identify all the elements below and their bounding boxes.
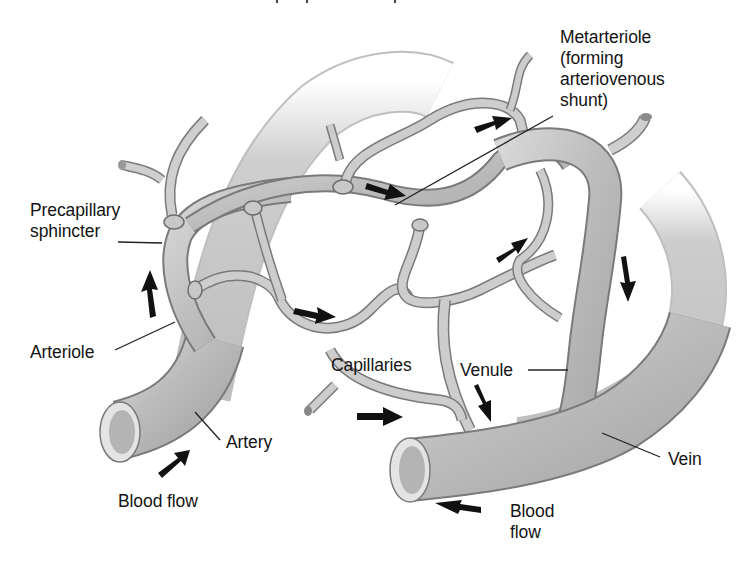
arrow-lower-capillary-icon — [357, 407, 403, 426]
sphincter-ring — [412, 219, 428, 231]
label-vein: Vein — [668, 449, 702, 470]
label-blood-flow-left: Blood flow — [118, 491, 198, 512]
upper-left-branches — [118, 120, 205, 215]
sphincter-ring — [244, 201, 262, 215]
label-precapillary-sphincter: Precapillary sphincter — [30, 200, 120, 242]
arrow-top-capillary-icon — [474, 116, 512, 133]
leader-arteriole — [115, 322, 175, 350]
arrow-venule-lower-icon — [474, 384, 491, 422]
vein — [390, 320, 700, 502]
label-blood-flow-right: Blood flow — [510, 501, 554, 543]
arrow-venule-down-icon — [620, 256, 636, 302]
artery — [100, 340, 215, 462]
leader-precapillary-sphincter — [118, 242, 162, 243]
label-capillaries: Capillaries — [331, 355, 412, 376]
sphincter-ring — [188, 281, 202, 299]
label-artery: Artery — [226, 432, 272, 453]
label-metarteriole: Metarteriole (forming arteriovenous shun… — [560, 27, 665, 111]
label-arteriole: Arteriole — [30, 342, 94, 363]
arrow-arteriole-up-icon — [141, 270, 158, 318]
arrow-artery-inflow-icon — [158, 450, 190, 478]
sphincter-ring — [333, 180, 353, 194]
label-venule: Venule — [460, 360, 513, 381]
sphincter-ring — [164, 215, 184, 229]
arrow-vein-outflow-icon — [435, 500, 481, 514]
